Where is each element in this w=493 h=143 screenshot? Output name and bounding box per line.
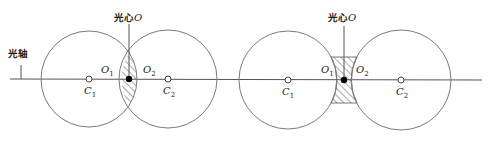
label-c1-left: C1 — [84, 86, 96, 99]
optical-center-text: 光心 — [328, 12, 348, 23]
label-o1-right: O1 — [321, 65, 334, 78]
axis-label: 光轴 — [8, 49, 28, 59]
optical-center-label-left: 光心O — [114, 13, 142, 23]
optical-center-symbol: O — [134, 12, 142, 23]
optical-center-dot-right — [341, 77, 347, 83]
optical-center-text: 光心 — [114, 12, 134, 23]
center-c2-left — [165, 76, 171, 82]
optical-center-label-right: 光心O — [328, 13, 356, 23]
optical-center-dot-left — [126, 76, 132, 82]
center-c2-right — [398, 77, 404, 83]
label-c1-right: C1 — [282, 87, 294, 100]
optical-center-symbol: O — [348, 12, 356, 23]
label-o2-left: O2 — [143, 65, 156, 78]
convex-lens-diagram — [41, 24, 217, 128]
lens-diagram — [0, 0, 493, 143]
label-o1-left: O1 — [101, 65, 114, 78]
label-c2-left: C2 — [163, 86, 175, 99]
optical-axis — [10, 79, 482, 80]
label-c2-right: C2 — [396, 87, 408, 100]
concave-lens-diagram — [239, 26, 451, 130]
center-c1-left — [86, 76, 92, 82]
center-c1-right — [285, 77, 291, 83]
label-o2-right: O2 — [356, 65, 369, 78]
